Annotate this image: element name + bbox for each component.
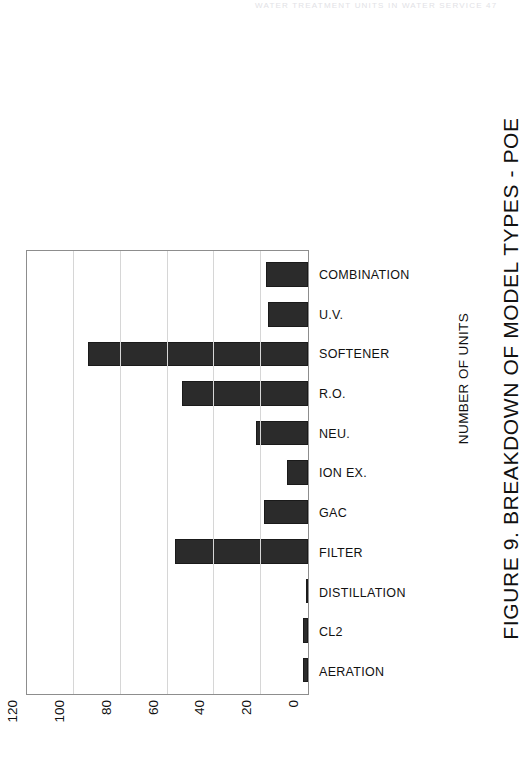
- gridline: [73, 251, 74, 694]
- bar: [303, 618, 308, 643]
- bar: [268, 302, 308, 327]
- x-label-slot: DISTILLATION: [311, 572, 471, 612]
- bar-slot: [27, 295, 308, 335]
- x-axis-tick-label: FILTER: [319, 546, 363, 560]
- y-axis-tick-label: 120: [5, 700, 20, 740]
- bar-slot: [27, 611, 308, 651]
- y-axis-tick-label: 20: [239, 700, 254, 740]
- x-label-slot: R.O.: [311, 373, 471, 413]
- x-axis-tick-label: AERATION: [319, 665, 384, 679]
- gridline: [120, 251, 121, 694]
- x-label-slot: ION EX.: [311, 453, 471, 493]
- bar-series: [27, 251, 308, 694]
- figure-inner: 020406080100120 AERATIONCL2DISTILLATIONF…: [0, 0, 529, 757]
- x-axis-tick-label: GAC: [319, 506, 347, 520]
- x-label-slot: CL2: [311, 612, 471, 652]
- gridline: [260, 251, 261, 694]
- gridline: [213, 251, 214, 694]
- x-axis-tick-label: ION EX.: [319, 466, 367, 480]
- x-axis-tick-label: DISTILLATION: [319, 586, 406, 600]
- x-label-slot: GAC: [311, 492, 471, 532]
- bar-slot: [27, 374, 308, 414]
- bar-slot: [27, 453, 308, 493]
- y-axis-tick-label: 0: [286, 700, 301, 740]
- bar-slot: [27, 650, 308, 690]
- y-axis-tick-label: 40: [192, 700, 207, 740]
- x-axis-tick-label: R.O.: [319, 387, 346, 401]
- x-label-slot: FILTER: [311, 532, 471, 572]
- bar-slot: [27, 492, 308, 532]
- plot-wrapper: 020406080100120 AERATIONCL2DISTILLATIONF…: [26, 234, 316, 737]
- bar-slot: [27, 334, 308, 374]
- y-axis-title: NUMBER OF UNITS: [456, 0, 471, 757]
- gridline: [167, 251, 168, 694]
- x-axis-tick-label: CL2: [319, 625, 343, 639]
- bar-slot: [27, 255, 308, 295]
- bar: [182, 381, 308, 406]
- x-label-slot: U.V.: [311, 294, 471, 334]
- chart-title: FIGURE 9. BREAKDOWN OF MODEL TYPES - POE: [499, 0, 523, 757]
- y-axis-tick-label: 80: [98, 700, 113, 740]
- bar-slot: [27, 413, 308, 453]
- bar: [264, 500, 308, 525]
- bar: [175, 539, 308, 564]
- x-label-slot: NEU.: [311, 413, 471, 453]
- bar-slot: [27, 532, 308, 572]
- bar: [266, 263, 308, 288]
- x-label-slot: SOFTENER: [311, 333, 471, 373]
- bar: [287, 460, 308, 485]
- figure-container: 020406080100120 AERATIONCL2DISTILLATIONF…: [0, 0, 529, 757]
- x-axis-tick-label: U.V.: [319, 308, 343, 322]
- bar: [306, 579, 308, 604]
- x-axis-tick-label: SOFTENER: [319, 347, 389, 361]
- x-axis-tick-labels: AERATIONCL2DISTILLATIONFILTERGACION EX.N…: [311, 250, 471, 695]
- y-axis-tick-label: 100: [51, 700, 66, 740]
- x-axis-tick-label: NEU.: [319, 427, 350, 441]
- bar: [303, 658, 308, 683]
- x-axis-tick-label: COMBINATION: [319, 268, 410, 282]
- y-axis-tick-label: 60: [145, 700, 160, 740]
- x-label-slot: AERATION: [311, 651, 471, 691]
- bar: [88, 342, 308, 367]
- bar-slot: [27, 571, 308, 611]
- plot-area: 020406080100120: [26, 250, 309, 695]
- bar: [256, 421, 308, 446]
- x-label-slot: COMBINATION: [311, 254, 471, 294]
